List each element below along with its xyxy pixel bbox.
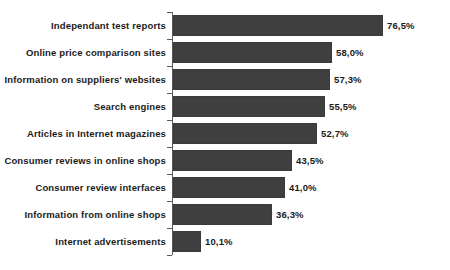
bar-and-value: 55,5%: [173, 93, 357, 120]
bar: [173, 177, 285, 198]
bar: [173, 96, 325, 117]
axis-tick-end: [167, 255, 172, 256]
bar-value-label: 55,5%: [329, 101, 357, 112]
bar-value-label: 36,3%: [276, 209, 304, 220]
bar-value-label: 43,5%: [296, 155, 324, 166]
bar: [173, 69, 330, 90]
category-label: Information from online shops: [0, 201, 166, 228]
bar-and-value: 43,5%: [173, 147, 324, 174]
axis-tick: [167, 174, 172, 175]
category-label: Articles in Internet magazines: [0, 120, 166, 147]
bar-row: Consumer review interfaces41,0%: [0, 174, 450, 201]
bar-and-value: 57,3%: [173, 66, 362, 93]
horizontal-bar-chart: Independant test reports76,5%Online pric…: [0, 0, 450, 270]
bar-value-label: 76,5%: [387, 20, 415, 31]
bar: [173, 150, 292, 171]
bar-row: Search engines55,5%: [0, 93, 450, 120]
category-label: Consumer reviews in online shops: [0, 147, 166, 174]
bar-value-label: 52,7%: [321, 128, 349, 139]
bar-row: Online price comparison sites58,0%: [0, 39, 450, 66]
axis-tick: [167, 147, 172, 148]
bar-and-value: 58,0%: [173, 39, 364, 66]
bar-and-value: 36,3%: [173, 201, 304, 228]
axis-tick: [167, 120, 172, 121]
category-label: Online price comparison sites: [0, 39, 166, 66]
bar-value-label: 57,3%: [334, 74, 362, 85]
category-label: Consumer review interfaces: [0, 174, 166, 201]
bar-and-value: 10,1%: [173, 228, 233, 255]
category-label: Independant test reports: [0, 12, 166, 39]
bar: [173, 42, 332, 63]
bar-and-value: 76,5%: [173, 12, 415, 39]
category-label: Information on suppliers' websites: [0, 66, 166, 93]
bar-value-label: 41,0%: [289, 182, 317, 193]
bar-row: Articles in Internet magazines52,7%: [0, 120, 450, 147]
category-label: Internet advertisements: [0, 228, 166, 255]
axis-tick: [167, 39, 172, 40]
plot-area: Independant test reports76,5%Online pric…: [0, 0, 450, 270]
axis-tick: [167, 93, 172, 94]
bar-row: Independant test reports76,5%: [0, 12, 450, 39]
bar-row: Information from online shops36,3%: [0, 201, 450, 228]
bar: [173, 204, 272, 225]
axis-tick: [167, 66, 172, 67]
bar-row: Information on suppliers' websites57,3%: [0, 66, 450, 93]
axis-tick: [167, 12, 172, 13]
bar-value-label: 58,0%: [336, 47, 364, 58]
bar: [173, 123, 317, 144]
bar-and-value: 52,7%: [173, 120, 349, 147]
bar-row: Consumer reviews in online shops43,5%: [0, 147, 450, 174]
axis-tick: [167, 201, 172, 202]
bar: [173, 231, 201, 252]
bar: [173, 15, 383, 36]
bar-value-label: 10,1%: [205, 236, 233, 247]
category-label: Search engines: [0, 93, 166, 120]
bar-row: Internet advertisements10,1%: [0, 228, 450, 255]
bar-and-value: 41,0%: [173, 174, 317, 201]
axis-tick: [167, 228, 172, 229]
